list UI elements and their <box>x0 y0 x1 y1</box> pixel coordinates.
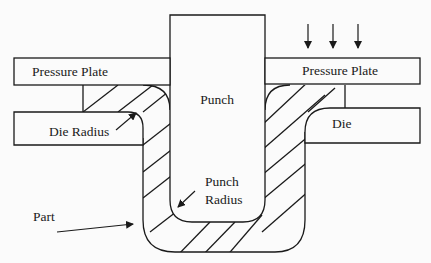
force-arrows <box>308 24 358 48</box>
die-left: Die Radius <box>14 112 143 145</box>
pressure-plate-right-label: Pressure Plate <box>302 63 378 78</box>
part-arrow-icon <box>57 224 133 232</box>
pressure-plate-left: Pressure Plate <box>14 58 170 85</box>
pressure-plate-left-label: Pressure Plate <box>32 64 108 79</box>
punch: Punch <box>170 15 265 222</box>
die-right: Die <box>305 108 420 143</box>
part-label: Part <box>33 209 55 224</box>
deep-drawing-diagram: Punch Pressure Plate Pressure Plate Die … <box>0 0 431 263</box>
die-radius-label: Die Radius <box>49 124 109 139</box>
punch-label: Punch <box>200 92 234 107</box>
die-label: Die <box>332 116 352 131</box>
pressure-plate-right: Pressure Plate <box>265 58 420 84</box>
diagram-canvas: Punch Pressure Plate Pressure Plate Die … <box>0 0 431 263</box>
punch-radius-label-line1: Punch <box>205 174 239 189</box>
punch-radius-label-line2: Radius <box>205 192 243 207</box>
